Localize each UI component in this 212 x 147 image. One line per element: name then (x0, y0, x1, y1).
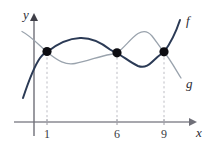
x-tick-label-1: 1 (39, 128, 55, 140)
y-axis-label: y (23, 8, 29, 21)
intersection-point-6 (112, 48, 121, 57)
intersection-point-1 (42, 47, 51, 56)
graph-canvas (0, 0, 212, 147)
x-tick-label-9: 9 (156, 128, 172, 140)
x-axis-label: x (196, 126, 202, 139)
function-graph-figure: y x f g 1 6 9 (0, 0, 212, 147)
x-tick-label-6: 6 (109, 128, 125, 140)
curve-label-g: g (186, 77, 193, 90)
intersection-point-9 (159, 47, 168, 56)
curve-label-f: f (186, 14, 190, 27)
